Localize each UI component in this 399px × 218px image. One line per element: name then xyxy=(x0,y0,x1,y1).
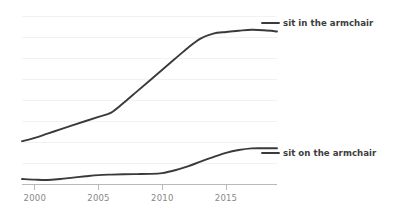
ngram-chart-page: 2000200520102015 sit in the armchair sit… xyxy=(0,0,399,218)
legend-connectors-group xyxy=(262,23,279,153)
x-tick-label: 2010 xyxy=(151,193,173,203)
gridlines-group xyxy=(22,16,277,163)
series-line-sit-on-the-armchair xyxy=(22,148,277,180)
x-axis-tick-marks xyxy=(35,185,226,191)
series-label-sit-in-the-armchair[interactable]: sit in the armchair xyxy=(283,18,373,28)
x-tick-label: 2005 xyxy=(87,193,109,203)
series-line-sit-in-the-armchair xyxy=(22,30,277,141)
series-group xyxy=(22,30,277,180)
series-label-sit-on-the-armchair[interactable]: sit on the armchair xyxy=(283,148,376,158)
line-chart-canvas: 2000200520102015 xyxy=(0,0,399,218)
x-axis-tick-labels: 2000200520102015 xyxy=(24,193,238,203)
x-tick-label: 2015 xyxy=(215,193,237,203)
x-tick-label: 2000 xyxy=(24,193,46,203)
